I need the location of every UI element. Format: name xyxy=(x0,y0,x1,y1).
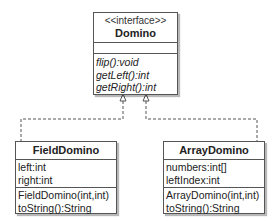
class-header: ArrayDomino xyxy=(164,142,264,160)
class-header: FieldDomino xyxy=(16,142,116,160)
arraydomino-realization-line xyxy=(146,101,257,141)
class-attributes: numbers:int[] leftIndex:int xyxy=(164,160,264,188)
interface-attributes xyxy=(94,43,177,54)
attribute: left:int xyxy=(18,161,114,174)
interface-domino: <<interface>> Domino flip():void getLeft… xyxy=(93,12,178,95)
class-name: FieldDomino xyxy=(16,144,116,157)
operation: toString():String xyxy=(18,202,114,215)
class-operations: FieldDomino(int,int) toString():String xyxy=(16,188,116,215)
fielddomino-realization-line xyxy=(21,101,123,141)
operation: FieldDomino(int,int) xyxy=(18,189,114,202)
operation: ArrayDomino(int,int) xyxy=(166,189,262,202)
realization-arrowhead-icon xyxy=(120,94,126,101)
stereotype-label: <<interface>> xyxy=(94,15,177,27)
class-name: ArrayDomino xyxy=(164,144,264,157)
interface-name: Domino xyxy=(94,27,177,40)
class-attributes: left:int right:int xyxy=(16,160,116,188)
class-fielddomino: FieldDomino left:int right:int FieldDomi… xyxy=(15,141,117,214)
interface-operations: flip():void getLeft():int getRight():int xyxy=(94,54,177,95)
attribute: leftIndex:int xyxy=(166,174,262,187)
class-arraydomino: ArrayDomino numbers:int[] leftIndex:int … xyxy=(163,141,265,214)
operation: toString():String xyxy=(166,202,262,215)
attribute: numbers:int[] xyxy=(166,161,262,174)
attribute: right:int xyxy=(18,174,114,187)
class-operations: ArrayDomino(int,int) toString():String xyxy=(164,188,264,215)
operation: getLeft():int xyxy=(96,69,175,82)
operation: getRight():int xyxy=(96,81,175,94)
operation: flip():void xyxy=(96,56,175,69)
interface-header: <<interface>> Domino xyxy=(94,13,177,43)
realization-arrowhead-icon xyxy=(143,94,149,101)
